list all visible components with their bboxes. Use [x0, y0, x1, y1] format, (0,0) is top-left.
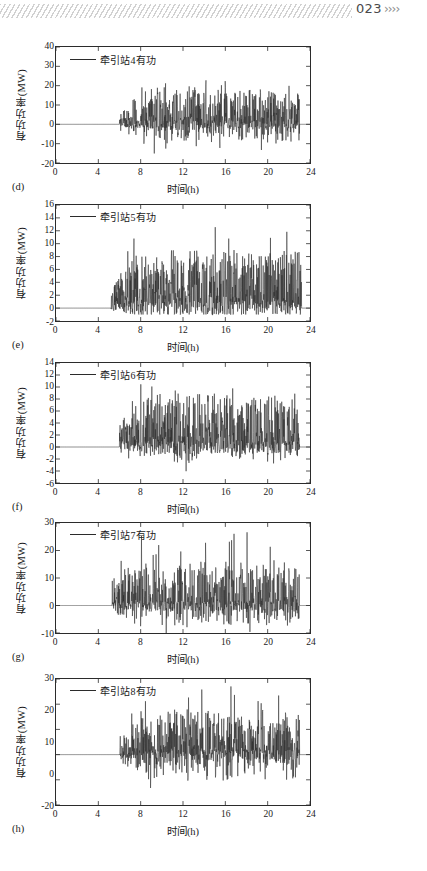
x-tick-label: 4 — [86, 810, 110, 820]
y-tick-label: 10 — [20, 574, 54, 584]
x-axis-label: 时间(h) — [143, 651, 223, 666]
plot-area: 牵引站5有功 — [55, 204, 311, 322]
y-tick-label: 4 — [20, 278, 54, 288]
x-tick-label: 16 — [214, 638, 238, 648]
x-tick-label: 20 — [256, 638, 280, 648]
x-tick-label: 4 — [86, 488, 110, 498]
y-tick-label: 0 — [20, 304, 54, 314]
legend-label: 牵引站6有功 — [100, 367, 156, 382]
chart-panel-h: 有功功率(MW)3020100-20牵引站8有功04812162024时间(h)… — [0, 672, 427, 850]
x-tick-label: 20 — [256, 810, 280, 820]
plot-area: 牵引站6有功 — [55, 362, 311, 484]
chart-panel-e: 有功功率(MW)1614121086420-2牵引站5有功04812162024… — [0, 198, 427, 366]
y-tick-label: 30 — [20, 674, 54, 684]
y-tick-label: 2 — [20, 431, 54, 441]
series-line — [56, 384, 310, 471]
y-tick-labels: 403020100-10-20 — [16, 46, 54, 164]
chart-legend: 牵引站7有功 — [70, 527, 156, 542]
legend-line-swatch — [70, 690, 96, 691]
y-tick-label: -2 — [20, 455, 54, 465]
chart-panel-d: 有功功率(MW)403020100-10-20牵引站4有功04812162024… — [0, 40, 427, 208]
chart-legend: 牵引站8有功 — [70, 683, 156, 698]
plot-area: 牵引站7有功 — [55, 522, 311, 634]
legend-line-swatch — [70, 534, 96, 535]
y-tick-labels: 1614121086420-2 — [16, 204, 54, 322]
x-tick-label: 20 — [256, 168, 280, 178]
x-axis-label: 时间(h) — [143, 823, 223, 838]
x-tick-label: 20 — [256, 488, 280, 498]
y-tick-label: 16 — [20, 200, 54, 210]
legend-label: 牵引站5有功 — [100, 209, 156, 224]
series-line — [56, 80, 310, 153]
chart-legend: 牵引站5有功 — [70, 209, 156, 224]
y-tick-label: 8 — [20, 252, 54, 262]
x-tick-label: 8 — [128, 638, 152, 648]
y-tick-label: 0 — [20, 120, 54, 130]
x-tick-label: 0 — [43, 810, 67, 820]
page-header: 023 ›››› — [0, 0, 427, 26]
plot-area: 牵引站4有功 — [55, 46, 311, 164]
y-tick-label: 10 — [20, 382, 54, 392]
x-tick-label: 0 — [43, 488, 67, 498]
y-tick-label: 20 — [20, 706, 54, 716]
page-number: 023 — [356, 1, 382, 16]
x-tick-label: 16 — [214, 810, 238, 820]
legend-label: 牵引站4有功 — [100, 52, 156, 67]
y-tick-label: 6 — [20, 406, 54, 416]
legend-line-swatch — [70, 374, 96, 375]
panel-label: (d) — [12, 181, 24, 192]
x-tick-label: 24 — [299, 810, 323, 820]
chart-panel-g: 有功功率(MW)3020100-10牵引站7有功04812162024时间(h)… — [0, 516, 427, 678]
y-tick-label: 4 — [20, 419, 54, 429]
y-tick-label: 20 — [20, 546, 54, 556]
chart-legend: 牵引站4有功 — [70, 52, 156, 67]
legend-label: 牵引站7有功 — [100, 527, 156, 542]
x-tick-label: 24 — [299, 168, 323, 178]
x-tick-label: 8 — [128, 168, 152, 178]
x-tick-label: 12 — [171, 638, 195, 648]
y-tick-label: 0 — [20, 443, 54, 453]
y-tick-label: 12 — [20, 370, 54, 380]
y-tick-label: -10 — [20, 140, 54, 150]
x-tick-label: 24 — [299, 326, 323, 336]
legend-label: 牵引站8有功 — [100, 683, 156, 698]
x-tick-label: 12 — [171, 810, 195, 820]
x-axis-label: 时间(h) — [143, 339, 223, 354]
x-axis-label: 时间(h) — [143, 181, 223, 196]
x-tick-label: 0 — [43, 326, 67, 336]
x-axis-label: 时间(h) — [143, 501, 223, 516]
x-tick-label: 4 — [86, 638, 110, 648]
y-tick-label: 10 — [20, 101, 54, 111]
x-tick-label: 8 — [128, 488, 152, 498]
x-tick-label: 0 — [43, 638, 67, 648]
x-tick-label: 16 — [214, 168, 238, 178]
y-tick-label: -4 — [20, 467, 54, 477]
x-tick-label: 24 — [299, 638, 323, 648]
x-tick-label: 24 — [299, 488, 323, 498]
x-tick-label: 0 — [43, 168, 67, 178]
x-tick-label: 20 — [256, 326, 280, 336]
chart-legend: 牵引站6有功 — [70, 367, 156, 382]
y-tick-label: 30 — [20, 61, 54, 71]
y-tick-label: 30 — [20, 518, 54, 528]
y-tick-label: 8 — [20, 394, 54, 404]
panel-label: (h) — [12, 823, 24, 834]
x-tick-label: 8 — [128, 810, 152, 820]
y-tick-label: 10 — [20, 239, 54, 249]
series-line — [56, 686, 310, 788]
chart-panel-f: 有功功率(MW)14121086420-2-4-6牵引站6有功048121620… — [0, 356, 427, 528]
x-tick-label: 16 — [214, 326, 238, 336]
series-line — [56, 227, 310, 315]
y-tick-label: 14 — [20, 213, 54, 223]
x-tick-label: 12 — [171, 488, 195, 498]
y-tick-labels: 14121086420-2-4-6 — [16, 362, 54, 484]
y-tick-label: 2 — [20, 291, 54, 301]
series-line — [56, 532, 310, 633]
chevron-right-icon: ›››› — [384, 2, 399, 16]
y-tick-label: 14 — [20, 358, 54, 368]
panel-label: (e) — [12, 339, 24, 350]
panel-label: (g) — [12, 651, 24, 662]
y-tick-labels: 3020100-20 — [16, 678, 54, 806]
legend-line-swatch — [70, 59, 96, 60]
y-tick-label: 6 — [20, 265, 54, 275]
